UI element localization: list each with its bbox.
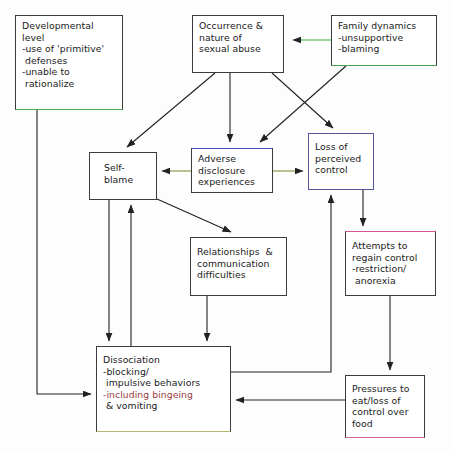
node-developmental-level-line: rationalize xyxy=(22,78,117,90)
node-adverse-disclosure-line: experiences xyxy=(198,176,267,188)
node-loss-of-perceived-control-line: Loss of xyxy=(315,141,368,153)
node-pressures-to-eat-line: food xyxy=(352,418,419,430)
node-self-blame-line: Self- xyxy=(104,162,151,174)
node-occurrence-sexual-abuse-line: Occurrence & xyxy=(199,20,278,32)
diagram-canvas: Developmentallevel-use of 'primitive' de… xyxy=(0,0,452,451)
node-developmental-level-line: Developmental xyxy=(22,20,117,32)
edge-occurrence-to-self-blame xyxy=(127,73,215,147)
edge-family-to-adverse-disclosure xyxy=(260,66,346,142)
node-self-blame: Self-blame xyxy=(89,152,157,200)
node-attempts-regain-control-line: anorexia xyxy=(352,275,430,287)
node-dissociation-line: -blocking/ xyxy=(103,366,225,378)
node-dissociation-line: Dissociation xyxy=(103,354,225,366)
node-developmental-level-line: level xyxy=(22,32,117,44)
node-relationships-communication-line: communication xyxy=(197,258,281,270)
node-occurrence-sexual-abuse-line: nature of xyxy=(199,32,278,44)
node-developmental-level-line: -unable to xyxy=(22,66,117,78)
node-developmental-level-line: -use of 'primitive' xyxy=(22,43,117,55)
node-family-dynamics: Family dynamics-unsupportive-blaming xyxy=(331,15,437,66)
node-attempts-regain-control-line: -restriction/ xyxy=(352,263,430,275)
node-pressures-to-eat-line: eat/loss of xyxy=(352,395,419,407)
node-dissociation-line: & vomiting xyxy=(103,400,225,412)
node-pressures-to-eat-line: control over xyxy=(352,406,419,418)
node-attempts-regain-control-line: Attempts to xyxy=(352,240,430,252)
edge-occurrence-to-loss-of-control xyxy=(272,73,333,128)
node-dissociation-line: -including bingeing xyxy=(103,389,225,401)
edge-self-blame-to-relationships xyxy=(157,199,231,232)
node-occurrence-sexual-abuse-line: sexual abuse xyxy=(199,43,278,55)
node-relationships-communication: Relationships &communicationdifficulties xyxy=(190,237,287,296)
node-adverse-disclosure: Adversedisclosureexperiences xyxy=(191,148,273,193)
node-self-blame-line: blame xyxy=(104,174,151,186)
node-occurrence-sexual-abuse: Occurrence &nature ofsexual abuse xyxy=(192,15,284,73)
edge-developmental-to-dissociation xyxy=(37,110,91,394)
node-adverse-disclosure-line: disclosure xyxy=(198,165,267,177)
node-family-dynamics-line: -blaming xyxy=(338,43,431,55)
node-loss-of-perceived-control-line: control xyxy=(315,164,368,176)
node-developmental-level: Developmentallevel-use of 'primitive' de… xyxy=(15,15,123,110)
node-pressures-to-eat-line: Pressures to xyxy=(352,383,419,395)
node-attempts-regain-control: Attempts toregain control-restriction/ a… xyxy=(345,231,436,296)
node-adverse-disclosure-line: Adverse xyxy=(198,153,267,165)
node-attempts-regain-control-line: regain control xyxy=(352,252,430,264)
node-dissociation-line: impulsive behaviors xyxy=(103,377,225,389)
node-loss-of-perceived-control: Loss ofperceivedcontrol xyxy=(308,133,374,190)
node-dissociation: Dissociation-blocking/ impulsive behavio… xyxy=(96,346,231,432)
node-relationships-communication-line: Relationships & xyxy=(197,246,281,258)
node-relationships-communication-line: difficulties xyxy=(197,269,281,281)
node-family-dynamics-line: Family dynamics xyxy=(338,20,431,32)
node-pressures-to-eat: Pressures toeat/loss ofcontrol overfood xyxy=(345,375,425,438)
node-loss-of-perceived-control-line: perceived xyxy=(315,153,368,165)
node-developmental-level-line: defenses xyxy=(22,55,117,67)
node-family-dynamics-line: -unsupportive xyxy=(338,32,431,44)
